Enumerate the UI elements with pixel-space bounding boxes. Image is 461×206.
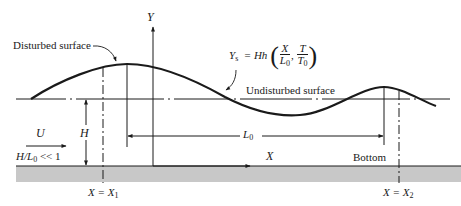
equation-close-paren: ) [309,41,318,70]
ratio-lhs: H/L [16,150,33,162]
x-axis-label: X [266,150,273,162]
x2-lhs: X = X [383,186,409,198]
equation-comma: , [291,49,294,61]
equation-equals-hh: = Hh [244,49,268,61]
x1-label: X = X1 [88,187,118,200]
ratio-rhs: << 1 [40,150,61,162]
frac2-den-sub: 0 [304,59,308,68]
ratio-label: H/L0 << 1 [16,151,61,164]
equation-frac1: XL0 [280,43,290,69]
velocity-label: U [36,127,45,139]
wavelength-sub: 0 [249,133,253,142]
disturbed-surface-curve [31,64,436,115]
diagram-canvas [0,0,461,206]
frac1-den-sub: 0 [286,59,290,68]
x1-lhs: X = X [88,186,114,198]
x1-sub: 1 [114,191,118,200]
disturbed-surface-label: Disturbed surface [13,40,91,51]
equation-leader [226,70,236,90]
equation-frac2: TT0 [297,43,307,69]
y-axis-label: Y [147,11,154,23]
bottom-band [16,166,461,182]
wavelength-label: L0 [243,129,253,142]
undisturbed-surface-label: Undisturbed surface [246,85,335,96]
wave-diagram: Y Disturbed surface Undisturbed surface … [0,0,461,206]
wave-equation: Ys = Hh (XL0, TT0) [229,43,317,69]
bottom-label: Bottom [353,152,386,163]
height-label: H [80,127,89,139]
equation-lhs-sub: s [235,54,238,63]
disturbed-surface-leader [93,46,116,61]
x2-label: X = X2 [383,187,413,200]
x2-sub: 2 [409,191,413,200]
ratio-sub: 0 [33,155,37,164]
equation-open-paren: ( [270,41,279,70]
